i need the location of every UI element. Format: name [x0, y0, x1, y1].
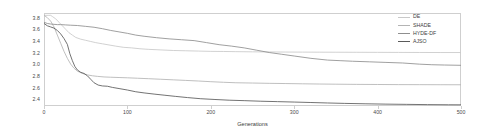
y-tick-label: 2.4 — [32, 98, 40, 103]
y-axis-tick-labels: 2.42.62.83.03.23.43.63.8 — [16, 13, 40, 106]
x-tick-label: 0 — [43, 110, 46, 115]
legend-item-ajso: AJSO — [398, 38, 470, 46]
x-tick-label: 500 — [457, 110, 466, 115]
y-tick-label: 3.8 — [32, 16, 40, 21]
y-tick-label: 3.0 — [32, 63, 40, 68]
x-axis-title: Generations — [44, 122, 461, 128]
y-tick-label: 3.2 — [32, 51, 40, 56]
x-tick-label: 100 — [123, 110, 132, 115]
legend-label: SHADE — [413, 23, 431, 28]
y-tick-label: 2.6 — [32, 86, 40, 91]
legend-line-swatch-icon — [398, 33, 410, 34]
y-tick-label: 3.6 — [32, 28, 40, 33]
legend-item-de: DE — [398, 13, 470, 21]
legend-label: HYDE-DF — [413, 31, 436, 36]
x-tick-label: 400 — [373, 110, 382, 115]
legend-item-shade: SHADE — [398, 21, 470, 29]
x-tick-label: 200 — [206, 110, 215, 115]
y-tick-label: 2.8 — [32, 74, 40, 79]
x-tick-label: 300 — [290, 110, 299, 115]
x-axis-tick-labels: 0100200300400500 — [44, 110, 461, 118]
legend: DESHADEHYDE-DFAJSO — [398, 13, 470, 46]
convergence-chart: 2.42.62.83.03.23.43.63.8 010020030040050… — [0, 0, 482, 139]
legend-line-swatch-icon — [398, 17, 410, 18]
legend-item-hyde-df: HYDE-DF — [398, 29, 470, 37]
legend-line-swatch-icon — [398, 25, 410, 26]
legend-line-swatch-icon — [398, 41, 410, 42]
legend-label: AJSO — [413, 39, 427, 44]
y-tick-label: 3.4 — [32, 39, 40, 44]
legend-label: DE — [413, 14, 420, 19]
